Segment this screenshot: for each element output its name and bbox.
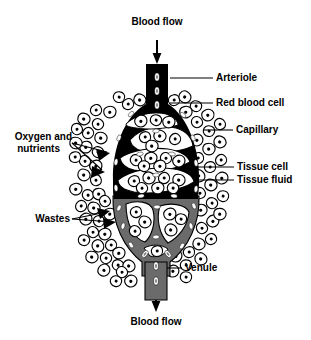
arteriole-label: Arteriole bbox=[216, 72, 257, 84]
venule-label: Venule bbox=[185, 262, 217, 274]
blood-flow-bottom-label: Blood flow bbox=[110, 316, 202, 328]
tissue-fluid-label: Tissue fluid bbox=[237, 174, 292, 186]
capillary-label: Capillary bbox=[236, 124, 278, 136]
wastes-label: Wastes bbox=[0, 213, 70, 225]
blood-flow-top-label: Blood flow bbox=[111, 16, 203, 28]
oxygen-nutrients-label-line2: nutrients bbox=[0, 143, 60, 155]
capillary-bed-diagram: Blood flow Arteriole Red blood cell Capi… bbox=[0, 0, 311, 340]
oxygen-nutrients-label-line1: Oxygen and bbox=[0, 131, 72, 143]
red-blood-cell-label: Red blood cell bbox=[216, 97, 284, 109]
tissue-cell-label: Tissue cell bbox=[237, 161, 288, 173]
